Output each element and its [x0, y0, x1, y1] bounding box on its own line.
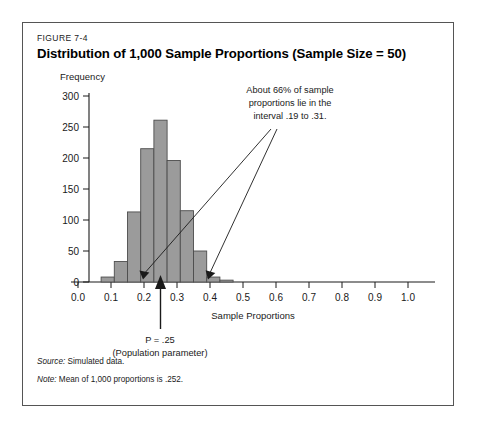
x-axis-title: Sample Proportions — [211, 310, 295, 321]
histogram-bar — [114, 262, 127, 282]
x-axis-ticks — [78, 282, 408, 288]
x-tick-label: 0.8 — [335, 292, 349, 303]
callout-line-1: About 66% of sample — [246, 85, 333, 95]
x-tick-label: 0.3 — [170, 292, 184, 303]
y-tick-label: 150 — [62, 184, 79, 195]
parameter-value-label: P = .25 — [145, 335, 175, 345]
population-parameter-pointer — [155, 275, 166, 329]
y-tick-label: 100 — [62, 215, 79, 226]
histogram-bars — [101, 120, 233, 282]
x-tick-label: 0.2 — [137, 292, 151, 303]
y-tick-label: 300 — [62, 91, 79, 102]
histogram-bar — [180, 211, 193, 282]
x-tick-label: 0.7 — [302, 292, 316, 303]
x-tick-label: 1.0 — [401, 292, 415, 303]
note-label: Note: — [37, 375, 57, 384]
figure-notes: Source: Simulated data. Note: Mean of 1,… — [37, 357, 437, 393]
x-tick-label: 0.0 — [71, 292, 85, 303]
histogram-bar — [154, 120, 167, 282]
histogram-bar — [167, 160, 180, 282]
source-note: Source: Simulated data. — [37, 357, 437, 367]
x-tick-label: 0.4 — [203, 292, 217, 303]
y-axis-tick-labels: 300 250 200 150 100 50 0 — [62, 91, 79, 288]
histogram-bar — [141, 149, 154, 282]
y-tick-label: 200 — [62, 153, 79, 164]
callout-line-3: interval .19 to .31. — [253, 111, 326, 121]
y-axis-ticks — [83, 96, 89, 282]
source-label: Source: — [37, 357, 65, 366]
x-tick-label: 0.9 — [368, 292, 382, 303]
histogram-bar — [101, 277, 114, 282]
callout-annotation: About 66% of sample proportions lie in t… — [246, 85, 333, 121]
x-axis-tick-labels: 0.0 0.1 0.2 0.3 0.4 0.5 0.6 0.7 0.8 0.9 … — [71, 292, 415, 303]
population-parameter-labels: P = .25 (Population parameter) — [112, 335, 207, 358]
histogram-bar — [220, 280, 233, 282]
arrow-line-high — [209, 129, 277, 275]
note-note: Note: Mean of 1,000 proportions is .252. — [37, 375, 437, 385]
y-tick-label: 250 — [62, 122, 79, 133]
histogram-chart: 300 250 200 150 100 50 0 — [23, 23, 455, 407]
x-tick-label: 0.5 — [236, 292, 250, 303]
callout-line-2: proportions lie in the — [249, 98, 332, 108]
source-text: Simulated data. — [65, 357, 124, 366]
x-tick-label: 0.6 — [269, 292, 283, 303]
note-text: Mean of 1,000 proportions is .252. — [57, 375, 184, 384]
y-tick-label: 50 — [68, 246, 80, 257]
histogram-bar — [194, 251, 207, 282]
figure-frame: FIGURE 7-4 Distribution of 1,000 Sample … — [22, 22, 454, 406]
histogram-bar — [128, 212, 141, 282]
x-tick-label: 0.1 — [104, 292, 118, 303]
